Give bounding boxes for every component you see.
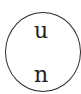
node-bottom-label: n (34, 64, 48, 86)
node-top-label: u (34, 20, 48, 42)
